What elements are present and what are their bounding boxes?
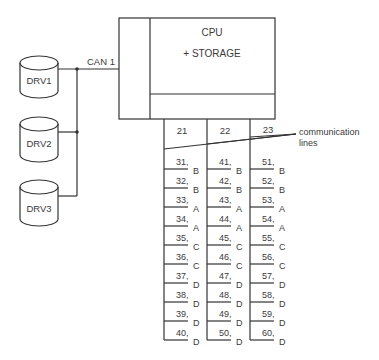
annotation-line2: lines	[299, 138, 318, 148]
line-type: D	[193, 318, 200, 328]
row-48: 48,D	[207, 290, 243, 309]
row-41: 41,B	[207, 157, 242, 176]
drive-drv3: DRV3	[20, 180, 58, 226]
line-type: D	[279, 318, 286, 328]
row-52: 52,B	[250, 176, 285, 195]
line-type: D	[236, 337, 243, 347]
line-type: C	[236, 261, 243, 271]
cpu-title: CPU	[201, 27, 222, 38]
can-bus: CAN 1	[58, 56, 119, 196]
line-number: 58,	[262, 290, 275, 300]
line-type: A	[279, 204, 285, 214]
line-number: 60,	[262, 328, 275, 338]
line-number: 43,	[219, 195, 232, 205]
row-51: 51,B	[250, 157, 285, 176]
column-header-22: 22	[220, 125, 231, 136]
line-number: 38,	[176, 290, 189, 300]
line-type: B	[279, 185, 285, 195]
row-49: 49,D	[207, 309, 243, 328]
drive-label: DRV2	[26, 138, 51, 149]
line-type: C	[279, 242, 286, 252]
line-number: 46,	[219, 252, 232, 262]
line-type: D	[236, 318, 243, 328]
line-number: 56,	[262, 252, 275, 262]
row-33: 33,A	[164, 195, 199, 214]
line-number: 48,	[219, 290, 232, 300]
row-55: 55,C	[250, 233, 286, 252]
line-number: 45,	[219, 233, 232, 243]
column-21-rows: 31,B 32,B 33,A 34,A 35,C 36,C 37,D 38,D …	[164, 157, 200, 347]
column-22-rows: 41,B 42,B 43,A 44,A 45,C 46,C 47,D 48,D …	[207, 157, 243, 347]
row-36: 36,C	[164, 252, 200, 271]
row-53: 53,A	[250, 195, 285, 214]
row-56: 56,C	[250, 252, 286, 271]
row-50: 50,D	[207, 328, 243, 347]
row-44: 44,A	[207, 214, 242, 233]
line-type: D	[193, 280, 200, 290]
row-31: 31,B	[164, 157, 199, 176]
row-37: 37,D	[164, 271, 200, 290]
line-number: 41,	[219, 157, 232, 167]
line-number: 35,	[176, 233, 189, 243]
row-38: 38,D	[164, 290, 200, 309]
row-40: 40,D	[164, 328, 200, 347]
line-type: A	[193, 223, 199, 233]
row-54: 54,A	[250, 214, 285, 233]
column-header-23: 23	[263, 124, 274, 135]
line-number: 51,	[262, 157, 275, 167]
line-number: 47,	[219, 271, 232, 281]
line-type: A	[193, 204, 199, 214]
line-type: B	[279, 166, 285, 176]
line-type: A	[236, 223, 242, 233]
row-59: 59,D	[250, 309, 286, 328]
column-23-rows: 51,B 52,B 53,A 54,A 55,C 56,C 57,D 58,D …	[250, 157, 286, 347]
row-39: 39,D	[164, 309, 200, 328]
row-32: 32,B	[164, 176, 199, 195]
line-number: 50,	[219, 328, 232, 338]
line-type: D	[279, 337, 286, 347]
communication-lines-pointer	[164, 134, 296, 149]
line-number: 53,	[262, 195, 275, 205]
line-number: 54,	[262, 214, 275, 224]
line-type: A	[236, 204, 242, 214]
cpu-subtitle: + STORAGE	[183, 48, 241, 59]
line-number: 42,	[219, 176, 232, 186]
row-46: 46,C	[207, 252, 243, 271]
line-type: C	[236, 242, 243, 252]
line-number: 52,	[262, 176, 275, 186]
line-number: 33,	[176, 195, 189, 205]
line-type: D	[236, 280, 243, 290]
line-type: D	[193, 337, 200, 347]
row-57: 57,D	[250, 271, 286, 290]
row-35: 35,C	[164, 233, 200, 252]
line-type: D	[193, 299, 200, 309]
line-type: B	[236, 166, 242, 176]
line-number: 49,	[219, 309, 232, 319]
line-type: D	[236, 299, 243, 309]
line-type: B	[236, 185, 242, 195]
line-type: B	[193, 185, 199, 195]
line-number: 31,	[176, 157, 189, 167]
row-60: 60,D	[250, 328, 286, 347]
line-number: 59,	[262, 309, 275, 319]
line-number: 36,	[176, 252, 189, 262]
network-diagram: CPU + STORAGE CAN 1 DRV1 DRV2 DRV3 21 22…	[0, 0, 379, 360]
line-type: B	[193, 166, 199, 176]
line-number: 40,	[176, 328, 189, 338]
line-number: 39,	[176, 309, 189, 319]
bus-label: CAN 1	[87, 56, 115, 67]
drive-label: DRV3	[26, 203, 51, 214]
row-58: 58,D	[250, 290, 286, 309]
row-43: 43,A	[207, 195, 242, 214]
line-type: A	[279, 223, 285, 233]
column-header-21: 21	[177, 125, 188, 136]
line-type: D	[279, 299, 286, 309]
line-type: C	[193, 261, 200, 271]
row-34: 34,A	[164, 214, 199, 233]
line-type: C	[279, 261, 286, 271]
row-45: 45,C	[207, 233, 243, 252]
line-number: 57,	[262, 271, 275, 281]
line-number: 44,	[219, 214, 232, 224]
drive-label: DRV1	[26, 75, 51, 86]
junction-dot	[75, 67, 79, 71]
